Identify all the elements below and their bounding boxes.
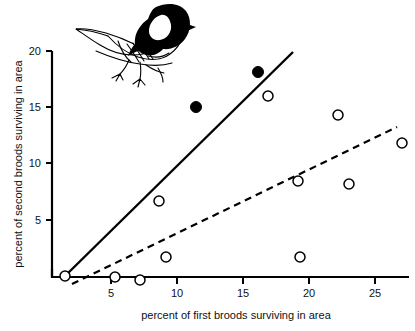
x-tick-label: 15 [237,287,249,299]
data-point-open [293,176,303,186]
x-axis-title: percent of first broods surviving in are… [141,309,331,321]
data-point-open [110,272,120,282]
data-point-open [263,91,273,101]
data-point-open [333,110,343,120]
data-point-filled [253,67,264,78]
data-point-open [344,179,354,189]
x-tick-label: 10 [171,287,183,299]
open-circle-data-points [60,91,407,285]
regression-lines [64,52,397,284]
y-tick-label: 20 [29,45,41,57]
x-axis-tick-labels: 5 10 15 20 25 [108,287,381,299]
data-point-open [154,196,164,206]
great-tit-bird-illustration [76,4,196,87]
y-tick-label: 15 [29,101,41,113]
y-tick-label: 10 [29,157,41,169]
data-point-filled [191,102,202,113]
x-tick-label: 25 [369,287,381,299]
data-point-open [295,252,305,262]
x-tick-label: 20 [303,287,315,299]
scatter-plot-figure: 20 15 10 5 5 10 15 20 25 percent of seco… [0,0,415,331]
data-point-open [397,138,407,148]
data-point-open [135,275,145,285]
chart-axes [52,51,409,277]
data-point-open [60,271,70,281]
solid-regression-line [64,52,293,277]
y-tick-label: 5 [35,214,41,226]
y-axis-title: percent of second broods surviving in ar… [12,59,24,267]
x-tick-label: 5 [108,287,114,299]
dashed-regression-line [72,127,397,284]
origin-nib [52,269,60,277]
y-axis-tick-labels: 20 15 10 5 [29,45,41,226]
filled-circle-data-points [191,67,264,113]
data-point-open [161,252,171,262]
